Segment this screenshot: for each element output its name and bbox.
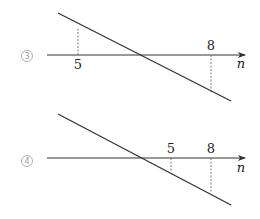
- diagram-canvas: 3 n 5 8 4 n 5 8: [0, 0, 260, 219]
- tick-label-8: 8: [207, 38, 215, 53]
- panel-4: 4 n 5 8: [22, 114, 246, 205]
- tick-label-8: 8: [207, 141, 215, 156]
- axis-label-n: n: [237, 160, 245, 175]
- tick-label-5: 5: [167, 141, 175, 156]
- marker-label: 4: [24, 157, 29, 166]
- panel-3: 3 n 5 8: [22, 13, 246, 101]
- decreasing-line: [58, 13, 231, 101]
- option-marker-4: 4: [22, 156, 33, 167]
- decreasing-line: [58, 114, 231, 205]
- tick-label-5: 5: [74, 57, 82, 72]
- marker-label: 3: [24, 52, 29, 61]
- option-marker-3: 3: [22, 51, 33, 62]
- axis-label-n: n: [237, 56, 245, 71]
